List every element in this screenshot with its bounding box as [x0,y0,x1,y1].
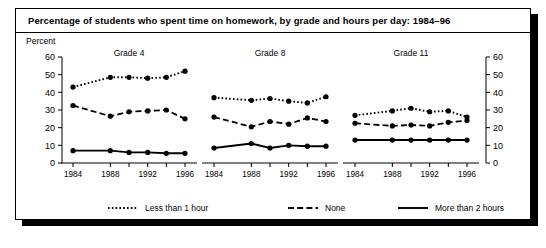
data-point [446,120,451,125]
data-point [305,100,310,105]
x-axis-tick-grade-8-1992: 1992 [280,170,299,179]
x-axis-tick-grade-4-1992: 1992 [139,170,158,179]
data-point [305,115,310,120]
data-point [108,114,113,119]
y-axis-tick-right-40: 40 [493,88,503,98]
legend-label-more-than-2-hours: More than 2 hours [435,203,504,213]
data-point [145,76,150,81]
plot-area: 0102030405060010203040506019841988199219… [16,45,532,197]
data-point [446,137,451,142]
data-point [464,118,469,123]
chart-title: Percentage of students who spent time on… [16,9,530,32]
data-point [182,69,187,74]
legend-label-none: None [325,203,346,213]
data-point [352,121,357,126]
panel-title-grade-8: Grade 8 [255,48,286,58]
data-point [126,109,131,114]
data-point [182,151,187,156]
data-point [390,137,395,142]
chart-panel: Percentage of students who spent time on… [15,8,531,220]
data-point [323,119,328,124]
y-axis-tick-left-10: 10 [45,141,55,151]
data-point [390,108,395,113]
x-axis-tick-grade-11-1992: 1992 [421,170,440,179]
data-point [70,103,75,108]
x-axis-tick-grade-4-1996: 1996 [176,170,195,179]
data-point [211,114,216,119]
data-point [164,151,169,156]
data-point [286,99,291,104]
data-point [211,145,216,150]
y-axis-tick-right-20: 20 [493,123,503,133]
data-point [126,75,131,80]
data-point [323,94,328,99]
plot-svg: 0102030405060010203040506019841988199219… [16,45,532,197]
data-point [249,141,254,146]
data-point [408,137,413,142]
data-point [267,145,272,150]
data-point [352,113,357,118]
data-point [108,75,113,80]
x-axis-tick-grade-4-1988: 1988 [101,170,120,179]
data-point [249,98,254,103]
x-axis-tick-grade-11-1988: 1988 [383,170,402,179]
x-axis-tick-grade-8-1984: 1984 [205,170,224,179]
data-point [427,137,432,142]
data-point [267,96,272,101]
y-axis-tick-left-30: 30 [45,105,55,115]
y-axis-tick-right-50: 50 [493,70,503,80]
data-point [427,123,432,128]
legend-svg: Less than 1 hourNoneMore than 2 hours [16,199,532,219]
data-point [249,124,254,129]
data-point [305,144,310,149]
data-point [286,122,291,127]
data-point [145,150,150,155]
panel-title-grade-4: Grade 4 [114,48,145,58]
chart-legend: Less than 1 hourNoneMore than 2 hours [16,199,532,219]
x-axis-tick-grade-4-1984: 1984 [64,170,83,179]
y-axis-tick-right-10: 10 [493,141,503,151]
data-point [408,122,413,127]
data-point [408,106,413,111]
data-point [164,107,169,112]
y-axis-tick-right-30: 30 [493,105,503,115]
legend-label-less-than-1-hour: Less than 1 hour [145,203,208,213]
data-point [70,148,75,153]
data-point [182,116,187,121]
panel-title-grade-11: Grade 11 [394,48,429,58]
y-axis-tick-left-0: 0 [50,158,55,168]
data-point [352,137,357,142]
y-axis-tick-left-60: 60 [45,52,55,62]
chart-title-text: Percentage of students who spent time on… [28,15,450,26]
title-divider [16,32,530,33]
data-point [286,143,291,148]
x-axis-tick-grade-8-1996: 1996 [317,170,336,179]
data-point [211,95,216,100]
data-point [464,137,469,142]
data-point [70,84,75,89]
data-point [108,148,113,153]
y-axis-tick-left-40: 40 [45,88,55,98]
data-point [446,108,451,113]
x-axis-tick-grade-11-1996: 1996 [458,170,477,179]
data-point [267,119,272,124]
data-point [427,109,432,114]
data-point [145,108,150,113]
data-point [323,144,328,149]
x-axis-tick-grade-8-1988: 1988 [242,170,261,179]
data-point [164,75,169,80]
y-axis-tick-right-60: 60 [493,52,503,62]
y-axis-tick-left-50: 50 [45,70,55,80]
data-point [390,123,395,128]
y-axis-tick-left-20: 20 [45,123,55,133]
y-axis-tick-right-0: 0 [493,158,498,168]
x-axis-tick-grade-11-1984: 1984 [346,170,365,179]
chart-figure: Percentage of students who spent time on… [0,0,546,248]
data-point [126,150,131,155]
